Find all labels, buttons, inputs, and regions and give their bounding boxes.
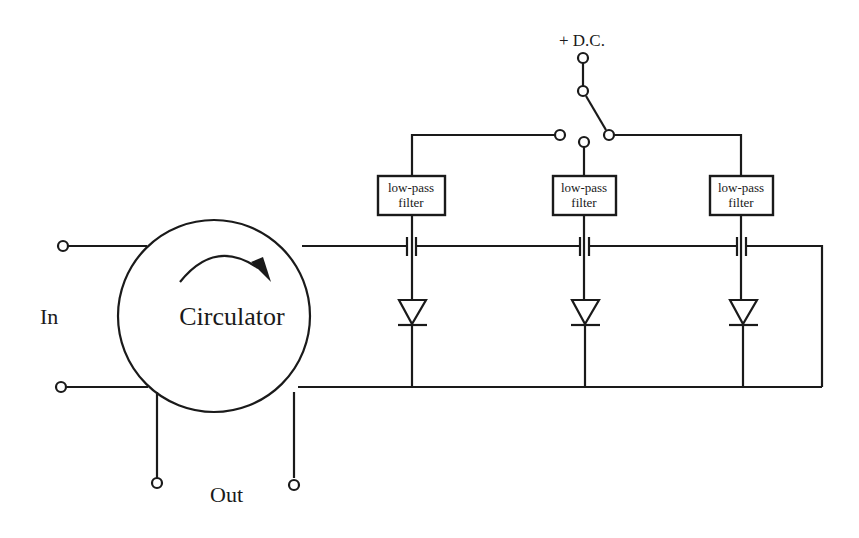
low-pass-filter-1: low-pass filter [378,176,445,215]
low-pass-filter-3: low-pass filter [710,176,773,215]
dc-terminal [578,53,588,63]
switch-contact-2[interactable] [579,137,589,147]
diode-2 [571,300,600,387]
wire-contact1-filter1 [412,135,555,176]
switch-pivot [578,86,588,96]
output-label: Out [210,482,243,507]
input-terminal-top[interactable] [58,241,68,251]
svg-text:low-pass: low-pass [718,180,764,195]
circulator-label: Circulator [179,302,285,331]
switch-contact-1[interactable] [555,130,565,140]
svg-text:low-pass: low-pass [561,180,607,195]
svg-text:low-pass: low-pass [388,180,434,195]
diode-1 [398,300,427,387]
circuit-diagram: + D.C. low-pass filter low-pass filter l… [0,0,859,538]
rf-line-return [746,246,822,387]
svg-text:filter: filter [398,195,424,210]
wire-contact3-filter3 [614,135,741,176]
circulator-arrow-head-icon [251,257,271,282]
input-label: In [40,304,58,329]
svg-text:filter: filter [728,195,754,210]
switch-arm[interactable] [586,96,606,130]
input-terminal-bottom[interactable] [56,382,66,392]
svg-text:filter: filter [571,195,597,210]
circulator-arrow-arc [180,256,258,282]
low-pass-filter-2: low-pass filter [553,176,616,215]
output-terminal-right[interactable] [289,480,299,490]
dc-supply-label: + D.C. [559,31,605,50]
switch-contact-3[interactable] [604,130,614,140]
output-terminal-left[interactable] [152,478,162,488]
diode-3 [729,300,758,387]
